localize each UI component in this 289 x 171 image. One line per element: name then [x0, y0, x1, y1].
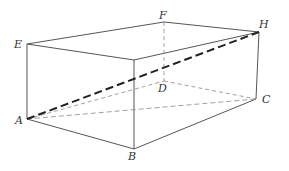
prism-drawing — [0, 0, 289, 171]
rectangular-prism-diagram: E F H D C A B — [0, 0, 289, 171]
edge-FH — [164, 22, 259, 32]
vertex-label-A: A — [15, 115, 23, 126]
edge-AB — [27, 119, 134, 149]
edge-EG — [27, 44, 134, 60]
face-diagonal — [27, 99, 256, 119]
edge-AH — [27, 32, 259, 119]
visible-edges — [27, 22, 259, 149]
edge-DC — [164, 81, 256, 99]
edge-EF — [27, 22, 164, 44]
hidden-edges — [27, 22, 256, 119]
vertex-label-C: C — [262, 94, 270, 105]
vertex-label-F: F — [159, 10, 167, 21]
edge-BC — [134, 99, 256, 149]
edge-HC — [256, 32, 259, 99]
vertex-label-E: E — [14, 39, 22, 50]
edge-AC — [27, 99, 256, 119]
vertex-label-H: H — [259, 19, 269, 30]
vertex-label-B: B — [128, 151, 136, 162]
space-diagonal-AH — [27, 32, 259, 119]
vertex-label-D: D — [158, 83, 167, 94]
